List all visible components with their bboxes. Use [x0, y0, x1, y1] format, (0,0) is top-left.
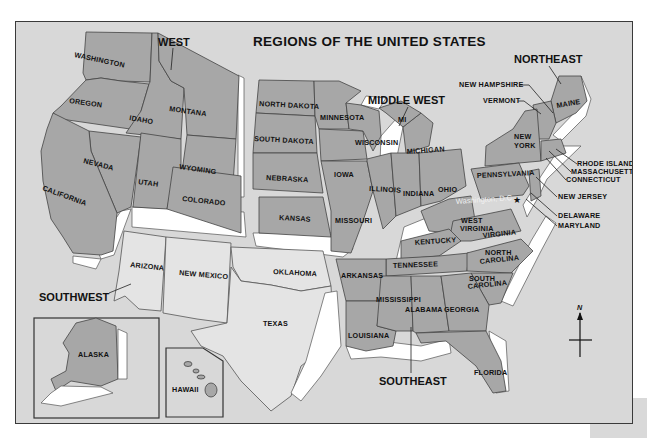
state-north-dakota[interactable]: [256, 80, 315, 116]
label-missouri: MISSOURI: [335, 216, 372, 225]
region-label-southwest: SOUTHWEST: [39, 291, 110, 303]
label-new-york-2: YORK: [514, 141, 536, 150]
label-mi: MI: [398, 115, 406, 124]
label-louisiana: LOUISIANA: [348, 331, 389, 340]
label-new-hampshire: NEW HAMPSHIRE: [459, 80, 524, 89]
label-arkansas: ARKANSAS: [341, 271, 383, 280]
capital-star-icon: ★: [513, 195, 521, 205]
label-alabama: ALABAMA: [405, 305, 443, 314]
map-title: REGIONS OF THE UNITED STATES: [253, 34, 486, 49]
leader-delaware: [531, 193, 557, 216]
state-nebraska[interactable]: [253, 153, 323, 193]
label-washington-dc: Washington, D.C.: [456, 193, 515, 206]
label-hawaii: HAWAII: [172, 385, 199, 394]
north-arrow-icon: [577, 312, 583, 320]
label-wisconsin: WISCONSIN: [355, 138, 398, 147]
leader-maryland: [526, 199, 557, 226]
compass-north-label: N: [577, 303, 583, 312]
label-new-york-1: NEW: [514, 132, 531, 141]
label-kansas: KANSAS: [279, 213, 311, 224]
label-iowa: IOWA: [334, 170, 354, 179]
us-regions-map: REGIONS OF THE UNITED STATES WEST MIDDLE…: [16, 22, 633, 424]
label-illinois: ILLINOIS: [369, 184, 401, 195]
region-label-southeast: SOUTHEAST: [379, 375, 447, 387]
state-new-york[interactable]: [485, 109, 541, 166]
leader-northeast: [549, 66, 561, 84]
region-southwest: [114, 231, 341, 411]
ca-relief-2: [73, 256, 101, 269]
label-alaska: ALASKA: [78, 350, 109, 359]
hawaii-inset: [166, 348, 223, 417]
alaska-relief: [118, 329, 127, 379]
label-connecticut: CONNECTICUT: [566, 175, 621, 184]
label-new-jersey: NEW JERSEY: [558, 192, 607, 201]
label-tennessee: TENNESSEE: [393, 259, 439, 270]
alaska-chain-relief: [41, 386, 113, 406]
state-south-dakota[interactable]: [253, 113, 317, 153]
map-frame: REGIONS OF THE UNITED STATES WEST MIDDLE…: [15, 21, 633, 424]
region-label-middle-west: MIDDLE WEST: [368, 94, 445, 106]
region-label-northeast: NORTHEAST: [514, 53, 583, 65]
label-texas: TEXAS: [263, 319, 288, 328]
compass-rose: N: [569, 303, 592, 357]
region-label-west: WEST: [158, 36, 190, 48]
label-delaware: DELAWARE: [558, 211, 600, 220]
region-southeast: [336, 196, 556, 393]
label-mississippi: MISSISSIPPI: [376, 295, 421, 304]
label-ohio: OHIO: [438, 185, 457, 194]
label-maryland: MARYLAND: [558, 221, 600, 230]
label-vermont: VERMONT: [483, 96, 521, 105]
label-florida: FLORIDA: [474, 368, 507, 377]
label-georgia: GEORGIA: [444, 305, 479, 314]
label-indiana: INDIANA: [403, 189, 434, 198]
label-minnesota: MINNESOTA: [320, 113, 364, 122]
